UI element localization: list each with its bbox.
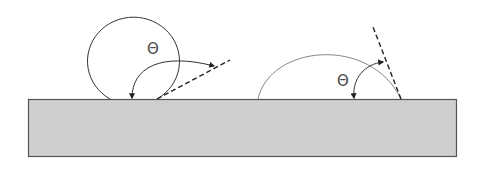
substrate bbox=[29, 100, 457, 157]
right-angle-label: Θ bbox=[337, 72, 349, 90]
right-drop bbox=[258, 55, 401, 99]
contact-angle-diagram: Θ Θ bbox=[0, 0, 482, 169]
left-angle-arc bbox=[132, 61, 214, 98]
right-angle-arc bbox=[354, 62, 383, 98]
left-tangent bbox=[157, 60, 230, 99]
left-angle-label: Θ bbox=[147, 40, 159, 58]
